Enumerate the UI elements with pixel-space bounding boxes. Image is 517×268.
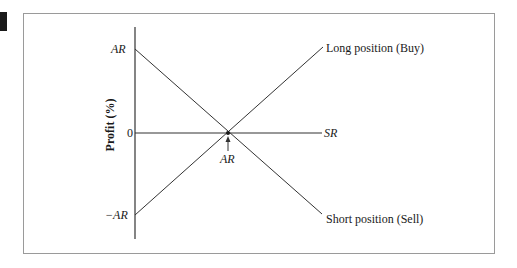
intersection-point bbox=[226, 131, 230, 135]
y-axis-label: Profit (%) bbox=[103, 99, 118, 152]
tick-label-neg-ar: −AR bbox=[105, 209, 128, 221]
long-position-label: Long position (Buy) bbox=[326, 42, 424, 54]
tick-label-ar: AR bbox=[111, 43, 126, 55]
short-position-label: Short position (Sell) bbox=[326, 213, 423, 225]
tick-label-zero: 0 bbox=[127, 127, 133, 139]
profit-diagram bbox=[0, 0, 517, 268]
x-axis-label-sr: SR bbox=[324, 127, 337, 139]
arrow-up-icon bbox=[226, 136, 231, 142]
intersection-label: AR bbox=[220, 153, 235, 165]
